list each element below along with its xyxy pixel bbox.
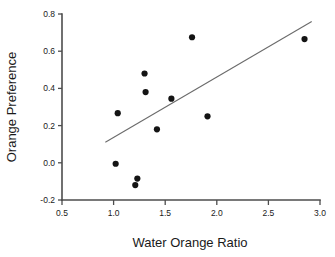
y-tick-label: 0.6: [43, 46, 55, 56]
x-tick-label: 2.0: [211, 208, 223, 218]
data-points-group: [113, 34, 308, 188]
x-axis-title: Water Orange Ratio: [132, 235, 247, 250]
data-point: [204, 113, 210, 119]
data-point: [115, 110, 121, 116]
scatter-plot-figure: -0.20.00.20.40.60.8 0.51.01.52.02.53.0 W…: [0, 0, 335, 257]
y-axis-tick-labels: -0.20.00.20.40.60.8: [40, 9, 55, 205]
data-point: [168, 96, 174, 102]
x-tick-label: 2.5: [262, 208, 274, 218]
data-point: [141, 70, 147, 76]
y-axis-title: Orange Preference: [4, 52, 19, 163]
data-point: [132, 182, 138, 188]
y-tick-label: 0.2: [43, 121, 55, 131]
y-tick-label: 0.0: [43, 158, 55, 168]
regression-trendline: [105, 21, 311, 142]
plot-axes: [62, 14, 320, 200]
data-point: [301, 36, 307, 42]
x-axis-tick-labels: 0.51.01.52.02.53.0: [56, 208, 326, 218]
y-tick-label: 0.8: [43, 9, 55, 19]
x-tick-label: 1.5: [159, 208, 171, 218]
data-point: [154, 126, 160, 132]
data-point: [142, 89, 148, 95]
y-tick-label: 0.4: [43, 83, 55, 93]
data-point: [134, 176, 140, 182]
y-tick-label: -0.2: [40, 195, 55, 205]
data-point: [189, 34, 195, 40]
data-point: [113, 161, 119, 167]
plot-canvas: -0.20.00.20.40.60.8 0.51.01.52.02.53.0 W…: [0, 0, 335, 257]
x-tick-label: 3.0: [314, 208, 326, 218]
x-tick-label: 0.5: [56, 208, 68, 218]
x-tick-label: 1.0: [108, 208, 120, 218]
